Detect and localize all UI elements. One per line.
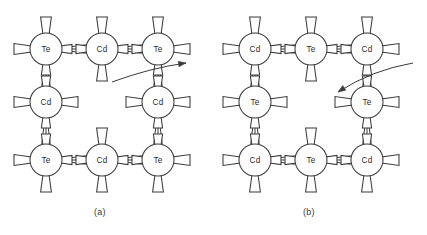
- atom-label: Te: [41, 45, 50, 54]
- bond-lobe-down: [41, 175, 52, 193]
- atom-label: Cd: [250, 45, 261, 54]
- atom-label: Cd: [41, 98, 52, 107]
- bond-lobe-left: [223, 97, 241, 108]
- bond-lobe-up: [306, 17, 317, 35]
- bond-lobe-right: [382, 155, 400, 166]
- lattice-diagram: TeCdTeCdCdTeCdTeCdTeCdTeTeCdTeCd: [0, 0, 427, 235]
- bond-lobe-down: [306, 175, 317, 193]
- bond-lobe-up: [153, 17, 164, 35]
- arrow-shaft: [112, 63, 186, 82]
- atom-label: Te: [306, 156, 315, 165]
- atom-label: Cd: [362, 156, 373, 165]
- vacancy-site-a: [88, 91, 116, 119]
- bond-lobe-up: [97, 128, 108, 146]
- migration-arrow-b: [338, 63, 413, 92]
- bond-lobe-left: [335, 97, 353, 108]
- bond-lobe-right: [173, 155, 191, 166]
- bond-lobe-right: [61, 97, 79, 108]
- atom-label: Te: [153, 156, 162, 165]
- bond-lobe-left: [126, 97, 144, 108]
- atom-cd-b-7: Cd: [341, 134, 399, 192]
- bond-lobe-up: [362, 17, 373, 35]
- bond-lobe-up: [41, 17, 52, 35]
- panel-b: CdTeCdTeTeCdTeCd: [223, 17, 399, 192]
- bond-lobe-right: [270, 97, 288, 108]
- atom-label: Cd: [250, 156, 261, 165]
- atom-te-a-2: Te: [132, 17, 190, 75]
- panel-caption-a: (a): [94, 207, 106, 217]
- atom-cd-a-3: Cd: [14, 76, 78, 128]
- atom-label: Cd: [153, 98, 164, 107]
- atom-label: Te: [41, 156, 50, 165]
- atom-te-a-0: Te: [14, 17, 72, 75]
- bond-lobe-left: [14, 155, 32, 166]
- bond-lobe-right: [173, 97, 191, 108]
- bond-lobe-up: [250, 17, 261, 35]
- bond-lobe-left: [223, 155, 241, 166]
- arrow-head: [338, 86, 346, 92]
- atom-label: Te: [153, 45, 162, 54]
- atom-cd-b-2: Cd: [341, 17, 399, 75]
- bond-lobe-left: [223, 44, 241, 55]
- atom-te-b-4: Te: [335, 76, 399, 128]
- bond-lobe-down: [306, 64, 317, 82]
- atom-te-b-1: Te: [285, 17, 337, 81]
- panel-caption-b: (b): [303, 207, 315, 217]
- atom-label: Te: [250, 98, 259, 107]
- bond-lobe-down: [97, 175, 108, 193]
- atom-cd-a-1: Cd: [76, 17, 128, 81]
- bond-lobe-down: [362, 175, 373, 193]
- atom-cd-a-6: Cd: [76, 128, 128, 192]
- atom-cd-a-4: Cd: [126, 76, 190, 128]
- vacancy-site-b: [297, 91, 325, 119]
- migration-arrow-a: [112, 61, 186, 82]
- bond-lobe-left: [14, 44, 32, 55]
- bond-lobe-right: [382, 97, 400, 108]
- bond-lobe-right: [382, 44, 400, 55]
- figure-root: TeCdTeCdCdTeCdTeCdTeCdTeTeCdTeCd (a) (b): [0, 0, 427, 235]
- atom-te-b-6: Te: [285, 128, 337, 192]
- bond-lobe-down: [153, 175, 164, 193]
- atom-label: Te: [362, 98, 371, 107]
- atom-te-b-3: Te: [223, 76, 287, 128]
- atom-te-a-7: Te: [132, 134, 190, 192]
- atom-cd-b-5: Cd: [223, 134, 281, 192]
- bond-lobe-right: [173, 44, 191, 55]
- arrow-shaft: [338, 63, 413, 92]
- bond-lobe-down: [97, 64, 108, 82]
- atom-label: Cd: [97, 156, 108, 165]
- atom-te-a-5: Te: [14, 134, 72, 192]
- atom-label: Cd: [362, 45, 373, 54]
- atom-label: Te: [306, 45, 315, 54]
- bond-lobe-up: [306, 128, 317, 146]
- atom-label: Cd: [97, 45, 108, 54]
- bond-lobe-down: [250, 175, 261, 193]
- atom-cd-b-0: Cd: [223, 17, 281, 75]
- bond-lobe-left: [14, 97, 32, 108]
- bond-lobe-up: [97, 17, 108, 35]
- arrow-head: [178, 61, 186, 67]
- panel-a: TeCdTeCdCdTeCdTe: [14, 17, 190, 192]
